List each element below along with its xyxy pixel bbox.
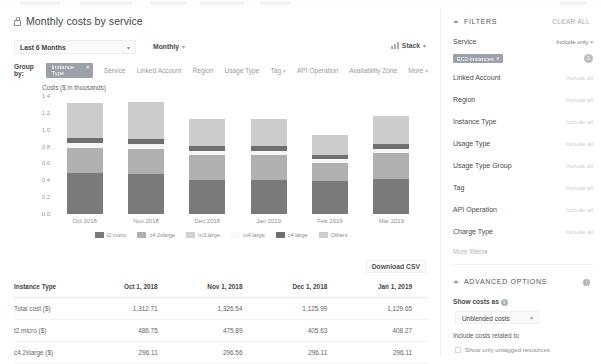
filter-name-linked-account: Linked Account — [453, 74, 500, 81]
chart-bar-segment[interactable] — [251, 155, 287, 180]
chart-bar-segment[interactable] — [312, 163, 348, 181]
filter-row-region[interactable]: Region Include all — [453, 96, 593, 109]
advanced-options-title: ADVANCED OPTIONS — [464, 278, 547, 285]
group-by-option-api-operation[interactable]: API Operation — [297, 67, 338, 74]
group-by-active-chip[interactable]: Instance Type ✕ — [46, 63, 92, 78]
filter-value-linked-account: Include all — [566, 75, 593, 81]
legend-item[interactable]: t2.micro — [95, 232, 127, 238]
untagged-resources-checkbox-row[interactable]: Show only untagged resources — [455, 346, 550, 353]
page-title: Monthly costs by service — [26, 15, 143, 27]
filters-section-header[interactable]: FILTERS — [453, 18, 497, 25]
bar-chart-icon — [391, 42, 399, 49]
filter-row-charge-type[interactable]: Charge Type Include all — [453, 228, 593, 241]
table-row-name: t2.micro ($) — [14, 327, 89, 334]
chart-bar-segment[interactable] — [189, 119, 225, 146]
chart-bar-segment[interactable] — [189, 180, 225, 214]
more-filters-button[interactable]: More filters▾ — [453, 248, 488, 256]
close-icon[interactable]: ✕ — [496, 56, 500, 61]
filter-value-service[interactable]: Include only▾ — [556, 39, 593, 45]
cost-table: Instance TypeOct 1, 2018Nov 1, 2018Dec 1… — [14, 276, 428, 364]
filter-chip-ec2-instances[interactable]: EC2-Instances ✕ — [453, 54, 503, 63]
chevron-up-icon — [453, 280, 459, 283]
chart-bar-segment[interactable] — [251, 119, 287, 146]
filter-row-usage-type[interactable]: Usage Type Include all — [453, 140, 593, 153]
chart-bar[interactable] — [251, 119, 287, 214]
y-axis-tick: 1.0 — [42, 127, 50, 133]
filter-row-usage-type-group[interactable]: Usage Type Group Include all — [453, 162, 593, 175]
group-by-option-linked-account[interactable]: Linked Account — [137, 67, 182, 74]
group-by-option-region[interactable]: Region — [192, 67, 213, 74]
granularity-select[interactable]: Monthly▾ — [153, 43, 185, 50]
show-costs-as-select[interactable]: Unblended costs ▾ — [455, 311, 539, 324]
chart-style-select[interactable]: Stack ▾ — [391, 42, 426, 49]
chart-bar-segment[interactable] — [373, 116, 409, 144]
chart-bar-segment[interactable] — [312, 181, 348, 214]
chart-bar-segment[interactable] — [189, 155, 225, 180]
group-by-option-tag[interactable]: Tag▾ — [270, 67, 285, 74]
group-by-option-service[interactable]: Service — [104, 67, 126, 74]
chart-bar-segment[interactable] — [373, 153, 409, 178]
table-cell: 296.56 — [174, 349, 259, 356]
filter-row-tag[interactable]: Tag Include all — [453, 184, 593, 197]
chevron-down-icon: ▾ — [182, 44, 185, 50]
table-cell: 1,125.99 — [258, 305, 343, 312]
info-icon[interactable]: i — [583, 279, 590, 286]
filter-row-api-operation[interactable]: API Operation Include all — [453, 206, 593, 219]
chart-bar-segment[interactable] — [67, 148, 103, 173]
chart-bar-segment[interactable] — [128, 149, 164, 174]
chevron-down-icon: ▾ — [423, 42, 426, 49]
legend-swatch — [95, 232, 104, 238]
chart-bar-segment[interactable] — [312, 135, 348, 155]
chart-bar[interactable] — [67, 103, 103, 214]
y-axis-tick: 0.4 — [42, 177, 50, 183]
filter-row-instance-type[interactable]: Instance Type Include all — [453, 118, 593, 131]
table-column-header: Jan 1, 2019 — [343, 283, 428, 290]
filter-name-charge-type: Charge Type — [453, 228, 493, 235]
chart-plot-area: 1.41.21.00.80.60.40.20.0Oct 2018Nov 2018… — [54, 96, 422, 214]
legend-item[interactable]: m3.large — [186, 232, 220, 238]
legend-item[interactable]: Others — [319, 232, 348, 238]
table-cell: 475.89 — [174, 327, 259, 334]
chart-bar[interactable] — [312, 135, 348, 214]
chart-bar[interactable] — [189, 119, 225, 214]
legend-item[interactable]: m4.large — [231, 232, 265, 238]
x-axis-label: Oct 2018 — [58, 218, 112, 224]
info-icon[interactable]: i — [501, 299, 508, 306]
checkbox[interactable] — [455, 347, 461, 353]
filter-row-service[interactable]: Service Include only▾ — [453, 38, 593, 51]
legend-swatch — [137, 232, 146, 238]
chart-bar[interactable] — [373, 116, 409, 214]
chart-bar-segment[interactable] — [251, 180, 287, 214]
chart-bar-segment[interactable] — [67, 173, 103, 214]
chart-bar-segment[interactable] — [128, 174, 164, 214]
table-cell: 296.11 — [89, 349, 174, 356]
chart-bar-segment[interactable] — [67, 103, 103, 137]
group-by-option-tag-label: Tag — [270, 67, 281, 74]
table-row: Total cost ($)1,312.711,326.541,125.991,… — [14, 298, 428, 320]
table-column-header: Instance Type — [14, 283, 89, 290]
x-axis-label: Mar 2019 — [364, 218, 418, 224]
table-cell: 405.63 — [258, 327, 343, 334]
chart-bar-segment[interactable] — [373, 179, 409, 214]
group-by-option-more[interactable]: More▾ — [408, 67, 428, 74]
legend-swatch — [231, 232, 240, 238]
legend-item[interactable]: c4.2xlarge — [137, 232, 175, 238]
y-axis-tick: 1.4 — [42, 93, 50, 99]
group-by-option-availability-zone[interactable]: Availability Zone — [349, 67, 397, 74]
advanced-options-header[interactable]: ADVANCED OPTIONS — [453, 278, 547, 285]
filter-name-service: Service — [453, 38, 476, 45]
chart-bar[interactable] — [128, 102, 164, 214]
date-range-select[interactable]: Last 6 Months ▾ — [14, 40, 136, 54]
legend-label: m3.large — [198, 232, 220, 238]
download-csv-button[interactable]: Download CSV — [366, 260, 426, 273]
clear-all-button[interactable]: CLEAR ALL — [552, 18, 590, 25]
close-icon[interactable]: ✕ — [86, 64, 90, 70]
table-row: c4.2xlarge ($)296.11296.56296.11296.11 — [14, 342, 428, 364]
sidebar-divider — [453, 264, 593, 265]
group-by-option-usage-type[interactable]: Usage Type — [224, 67, 259, 74]
legend-item[interactable]: c4.large — [276, 232, 308, 238]
legend-label: t2.micro — [107, 232, 127, 238]
filter-row-linked-account[interactable]: Linked Account Include all — [453, 74, 593, 87]
filter-name-usage-type-group: Usage Type Group — [453, 162, 512, 169]
chart-bar-segment[interactable] — [128, 102, 164, 138]
